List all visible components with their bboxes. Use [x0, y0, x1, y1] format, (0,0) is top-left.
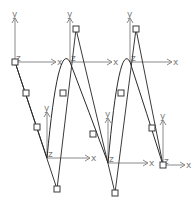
- control-point-handle[interactable]: [149, 125, 155, 131]
- control-point-handle[interactable]: [112, 190, 118, 196]
- control-point-handle[interactable]: [118, 90, 124, 96]
- spline-curve: [15, 59, 163, 165]
- curve-segment: [15, 62, 47, 158]
- curve-segment: [70, 62, 108, 163]
- frame-1: yxz: [12, 9, 63, 67]
- control-point-handle[interactable]: [12, 59, 18, 65]
- x-label: x: [113, 57, 119, 67]
- y-label: y: [44, 103, 50, 113]
- control-point-handle[interactable]: [23, 90, 29, 96]
- x-label: x: [149, 158, 155, 168]
- y-label: y: [67, 9, 73, 19]
- control-polygon: [15, 29, 163, 193]
- x-label: x: [91, 153, 97, 163]
- control-point-handles[interactable]: [12, 26, 166, 196]
- diagram-canvas: yxzyxzyxzyxzyxzyxz: [0, 0, 193, 204]
- y-label: y: [160, 111, 166, 121]
- control-line: [57, 29, 76, 189]
- control-point-handle[interactable]: [54, 186, 60, 192]
- z-label: z: [48, 149, 53, 159]
- control-line: [115, 29, 136, 193]
- control-point-handle[interactable]: [60, 90, 66, 96]
- curve-segment: [108, 59, 130, 163]
- y-label: y: [127, 9, 133, 19]
- x-label: x: [186, 160, 192, 170]
- curve-segment: [130, 62, 163, 165]
- control-point-handle[interactable]: [73, 26, 79, 32]
- control-line: [136, 29, 163, 165]
- control-point-handle[interactable]: [160, 162, 166, 168]
- y-label: y: [105, 109, 111, 119]
- y-label: y: [12, 9, 18, 19]
- frame-6: yxz: [160, 111, 192, 170]
- z-label: z: [109, 154, 114, 164]
- x-label: x: [173, 57, 179, 67]
- control-point-handle[interactable]: [133, 26, 139, 32]
- control-point-handle[interactable]: [90, 131, 96, 137]
- control-point-handle[interactable]: [34, 124, 40, 130]
